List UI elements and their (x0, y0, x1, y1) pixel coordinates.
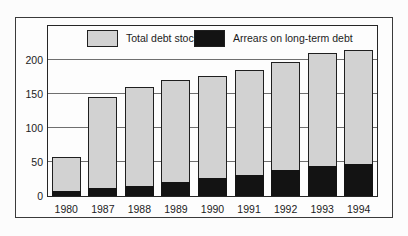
figure-frame: Total debt stock Arrears on long-term de… (15, 17, 393, 218)
bar-1993 (308, 53, 337, 196)
bar-1989-total-debt-segment (161, 80, 190, 196)
plot-area: Total debt stock Arrears on long-term de… (47, 25, 378, 197)
bar-1994 (344, 50, 373, 196)
y-tick-label-50: 50 (16, 156, 43, 168)
bar-1987 (88, 97, 117, 196)
x-tick-label-1980: 1980 (46, 203, 86, 215)
bar-1991-arrears-segment (235, 175, 264, 196)
x-tick-label-1991: 1991 (229, 203, 269, 215)
bar-1989-arrears-segment (161, 182, 190, 196)
x-tick-label-1988: 1988 (119, 203, 159, 215)
y-tick-label-100: 100 (16, 122, 43, 134)
legend-swatch-total-debt (87, 30, 118, 47)
y-tick-label-150: 150 (16, 88, 43, 100)
bar-1990 (198, 76, 227, 196)
bar-1993-arrears-segment (308, 166, 337, 196)
y-tick-label-0: 0 (16, 190, 43, 202)
bar-1987-total-debt-segment (88, 97, 117, 196)
bar-1988-total-debt-segment (125, 87, 154, 196)
x-tick-label-1994: 1994 (339, 203, 379, 215)
y-tick-label-200: 200 (16, 54, 43, 66)
legend-swatch-arrears (194, 30, 225, 47)
x-tick-label-1989: 1989 (156, 203, 196, 215)
legend-entry-arrears: Arrears on long-term debt (194, 30, 353, 47)
x-tick-label-1992: 1992 (266, 203, 306, 215)
legend-entry-total-debt: Total debt stock (87, 30, 199, 47)
x-tick-label-1987: 1987 (83, 203, 123, 215)
bar-1990-arrears-segment (198, 178, 227, 196)
bar-1991 (235, 70, 264, 196)
bar-1980-arrears-segment (52, 191, 81, 196)
x-tick-label-1993: 1993 (302, 203, 342, 215)
x-tick-label-1990: 1990 (193, 203, 233, 215)
legend: Total debt stock Arrears on long-term de… (48, 30, 377, 50)
bar-1987-arrears-segment (88, 188, 117, 196)
bar-1980-total-debt-segment (52, 157, 81, 196)
scanned-chart-page: Total debt stock Arrears on long-term de… (0, 0, 408, 236)
bar-1988 (125, 87, 154, 196)
legend-label-arrears: Arrears on long-term debt (233, 30, 353, 47)
bar-1992 (271, 62, 300, 196)
bar-1980 (52, 157, 81, 196)
bar-1992-arrears-segment (271, 170, 300, 196)
bar-1989 (161, 80, 190, 196)
legend-label-total-debt: Total debt stock (126, 30, 199, 47)
bar-1994-arrears-segment (344, 164, 373, 196)
bar-1988-arrears-segment (125, 186, 154, 196)
